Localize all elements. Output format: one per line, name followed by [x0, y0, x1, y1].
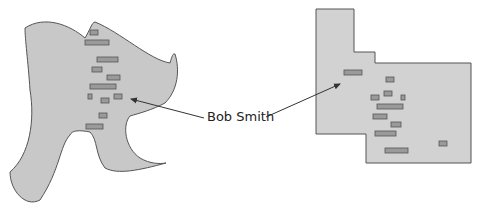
left-region-block [97, 57, 118, 62]
left-region-block [90, 30, 98, 35]
left-region-block [99, 113, 107, 118]
bob-smith-label: Bob Smith [207, 109, 274, 124]
right-region-block [384, 91, 392, 96]
right-region-block [401, 95, 405, 100]
left-region-shape [10, 22, 178, 202]
right-region-block [375, 131, 396, 136]
right-region-block [439, 141, 447, 146]
left-region-block [88, 94, 92, 99]
right-region-block [385, 148, 408, 153]
left-region-block [85, 40, 109, 45]
right-region-block [371, 95, 379, 100]
left-region-block [101, 98, 109, 103]
diagram-canvas [0, 0, 480, 211]
right-region-block [386, 77, 394, 82]
left-region-block [86, 124, 103, 129]
left-region-block [90, 84, 116, 89]
left-region-block [92, 67, 102, 72]
left-region-block [114, 94, 122, 99]
right-region-block [344, 70, 362, 75]
left-region-block [107, 75, 120, 80]
right-region-block [391, 122, 401, 127]
right-region-shape [316, 9, 471, 163]
right-region-block [373, 114, 387, 119]
right-region-block [377, 104, 403, 109]
